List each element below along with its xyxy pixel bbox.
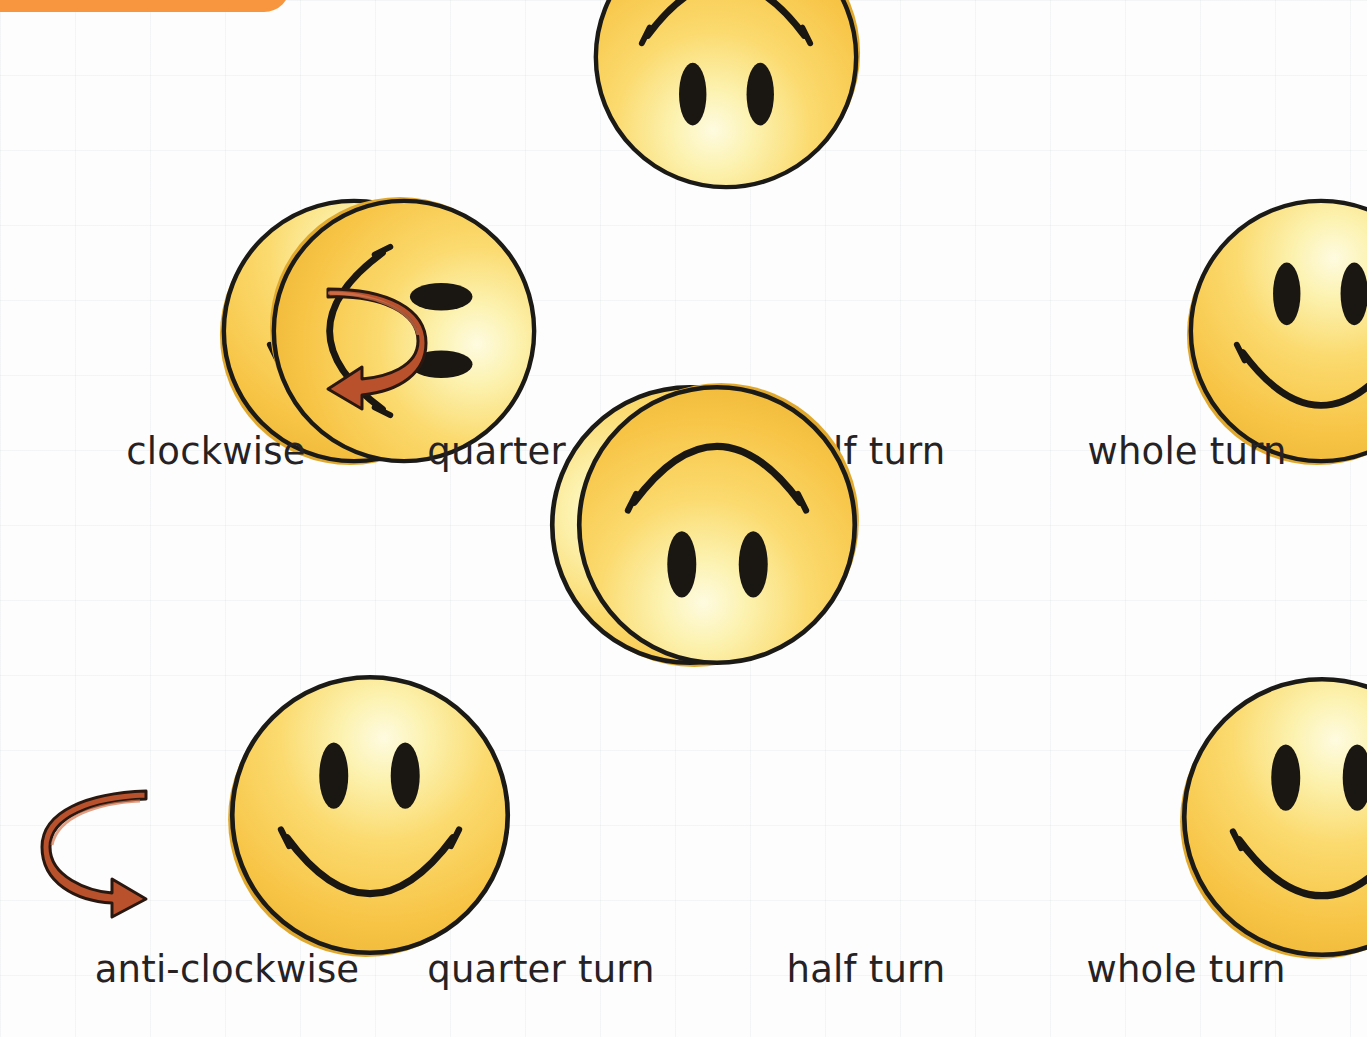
section-header-banner [0,0,290,12]
label-clockwise: clockwise [46,430,386,473]
smiley-face-upright-icon [1180,679,1367,959]
smiley-face-anticlockwise-start [80,524,370,816]
label-whole-turn-anticlockwise: whole turn [1016,948,1356,991]
smiley-face-whole-turn-anticlockwise [1032,526,1322,818]
label-half-turn-anticlockwise: half turn [696,948,1036,991]
smiley-face-upside-down-icon [579,383,859,663]
label-anticlockwise: anti-clockwise [57,948,397,991]
anticlockwise-arrow-icon [40,793,150,918]
smiley-face-upright-icon [1187,201,1367,465]
label-quarter-turn-anticlockwise: quarter turn [371,948,711,991]
clockwise-arrow-icon [322,283,432,405]
smiley-face-half-turn-anticlockwise [717,524,1007,816]
smiley-face-whole-turn-clockwise [1047,57,1321,331]
label-whole-turn-clockwise: whole turn [1017,430,1357,473]
smiley-face-half-turn-clockwise [726,57,1000,331]
